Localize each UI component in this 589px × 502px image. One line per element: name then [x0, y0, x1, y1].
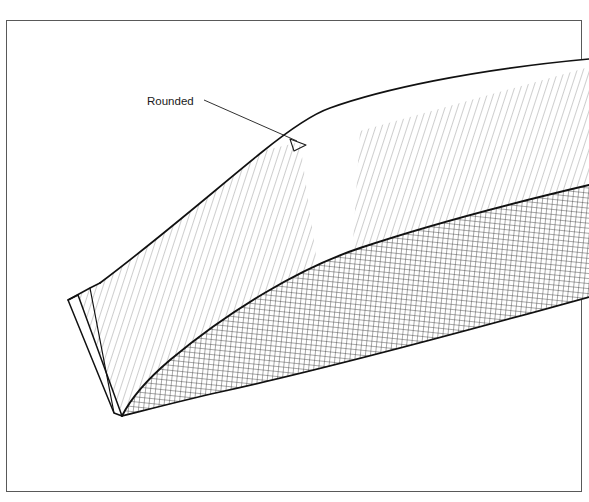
rounded-callout-label: Rounded — [147, 95, 194, 107]
callout-leader-line — [204, 100, 297, 141]
technical-drawing-canvas: Rounded — [0, 0, 589, 502]
figure-root: Rounded — [0, 0, 589, 502]
tapered-wedge-body — [68, 59, 589, 416]
